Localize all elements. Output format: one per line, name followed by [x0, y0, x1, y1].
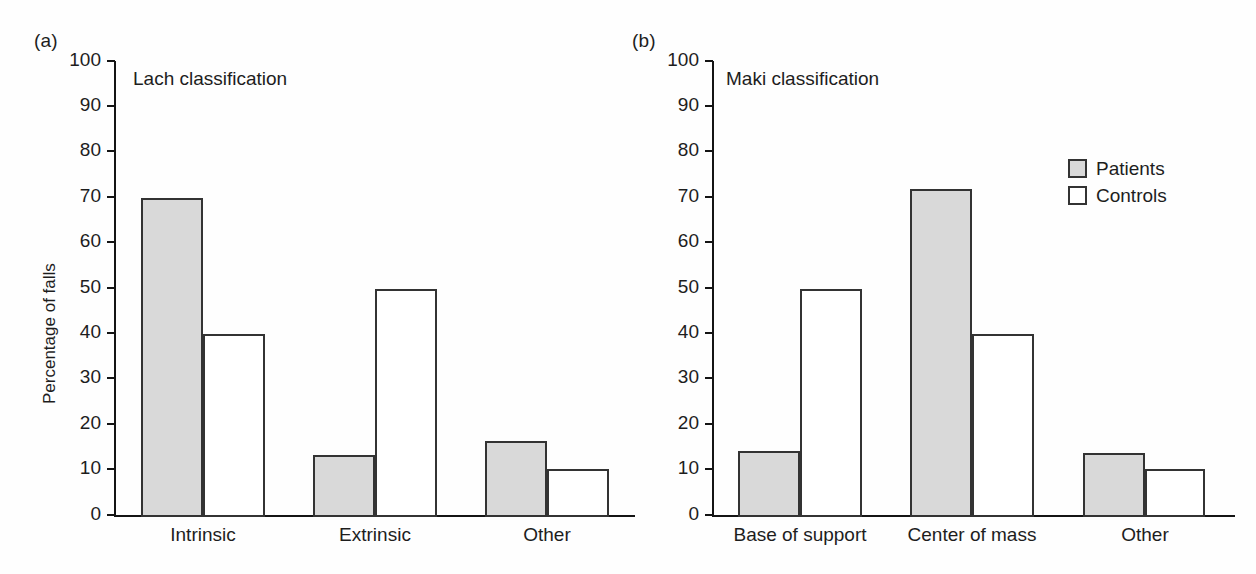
x-cat-label-other-b: Other [1055, 524, 1235, 546]
legend-item-controls[interactable]: Controls [1068, 182, 1167, 209]
y-tick-label-70-b: 70 [645, 185, 699, 207]
y-tick-label-30-a: 30 [47, 366, 101, 388]
bar-patients-other-a[interactable] [485, 441, 547, 517]
x-cat-label-other-a: Other [457, 524, 637, 546]
x-cat-label-center-of-mass: Center of mass [882, 524, 1062, 546]
y-tick-70-b [705, 196, 713, 198]
y-tick-label-50-a: 50 [47, 276, 101, 298]
chart-panel-b: (b) Maki classification 0 10 20 30 40 50… [616, 0, 1256, 574]
y-tick-label-10-b: 10 [645, 457, 699, 479]
y-tick-10-b [705, 468, 713, 470]
y-tick-0-a [107, 514, 115, 516]
y-tick-label-90-b: 90 [645, 94, 699, 116]
y-tick-100-b [705, 60, 713, 62]
y-tick-100-a [107, 60, 115, 62]
y-tick-label-20-b: 20 [645, 412, 699, 434]
y-tick-20-b [705, 423, 713, 425]
y-tick-label-80-a: 80 [47, 139, 101, 161]
panel-title-a: Lach classification [133, 68, 287, 90]
y-tick-label-60-a: 60 [47, 230, 101, 252]
y-tick-label-100-a: 100 [47, 49, 101, 71]
y-tick-label-40-a: 40 [47, 321, 101, 343]
y-tick-label-80-b: 80 [645, 139, 699, 161]
y-tick-label-10-a: 10 [47, 457, 101, 479]
y-tick-label-90-a: 90 [47, 94, 101, 116]
y-tick-label-70-a: 70 [47, 185, 101, 207]
y-tick-label-20-a: 20 [47, 412, 101, 434]
legend-label-controls: Controls [1096, 185, 1167, 207]
bar-patients-extrinsic[interactable] [313, 455, 375, 517]
bar-patients-base-of-support[interactable] [738, 451, 800, 517]
y-axis-line-b [712, 61, 714, 517]
bar-controls-base-of-support[interactable] [800, 289, 862, 517]
y-tick-30-b [705, 377, 713, 379]
y-tick-60-a [107, 241, 115, 243]
y-tick-label-60-b: 60 [645, 230, 699, 252]
y-tick-90-b [705, 105, 713, 107]
x-cat-label-extrinsic: Extrinsic [285, 524, 465, 546]
y-tick-20-a [107, 423, 115, 425]
y-tick-70-a [107, 196, 115, 198]
legend-swatch-patients-icon [1068, 159, 1087, 178]
bar-controls-extrinsic[interactable] [375, 289, 437, 517]
panel-title-b: Maki classification [726, 68, 879, 90]
bar-patients-center-of-mass[interactable] [910, 189, 972, 517]
x-cat-label-intrinsic: Intrinsic [113, 524, 293, 546]
y-tick-40-b [705, 332, 713, 334]
bar-controls-other-a[interactable] [547, 469, 609, 517]
y-tick-50-a [107, 287, 115, 289]
y-tick-label-30-b: 30 [645, 366, 699, 388]
chart-panel-a: (a) Lach classification Percentage of fa… [0, 0, 640, 574]
bar-controls-other-b[interactable] [1145, 469, 1205, 517]
y-tick-60-b [705, 241, 713, 243]
legend-label-patients: Patients [1096, 158, 1165, 180]
legend-swatch-controls-icon [1068, 186, 1087, 205]
y-tick-0-b [705, 514, 713, 516]
y-tick-90-a [107, 105, 115, 107]
y-tick-40-a [107, 332, 115, 334]
y-tick-label-50-b: 50 [645, 276, 699, 298]
y-tick-30-a [107, 377, 115, 379]
bar-patients-other-b[interactable] [1083, 453, 1145, 517]
y-tick-label-0-a: 0 [47, 503, 101, 525]
bar-patients-intrinsic[interactable] [141, 198, 203, 517]
bar-controls-center-of-mass[interactable] [972, 334, 1034, 517]
legend-item-patients[interactable]: Patients [1068, 155, 1167, 182]
y-tick-10-a [107, 468, 115, 470]
y-tick-80-b [705, 150, 713, 152]
legend: Patients Controls [1068, 155, 1167, 209]
y-tick-label-0-b: 0 [645, 503, 699, 525]
figure-root: (a) Lach classification Percentage of fa… [0, 0, 1256, 574]
y-axis-line-a [114, 61, 116, 517]
y-tick-label-40-b: 40 [645, 321, 699, 343]
y-tick-50-b [705, 287, 713, 289]
y-tick-label-100-b: 100 [645, 49, 699, 71]
x-cat-label-base-of-support: Base of support [710, 524, 890, 546]
y-tick-80-a [107, 150, 115, 152]
bar-controls-intrinsic[interactable] [203, 334, 265, 517]
